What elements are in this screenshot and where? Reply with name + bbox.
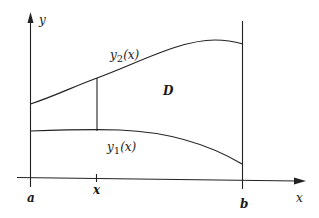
x-axis-arrow-icon <box>294 178 306 185</box>
x-tick-label: x <box>92 183 101 197</box>
lower-curve-label: y1(x) <box>106 140 137 156</box>
upper-curve-label: y2(x) <box>109 48 140 64</box>
region-d-label: D <box>162 84 174 98</box>
x-axis <box>17 178 298 182</box>
region-diagram: y x y2(x) y1(x) D a x b <box>0 0 319 218</box>
b-bound-label: b <box>240 197 248 211</box>
y-axis-arrow-icon <box>28 12 34 23</box>
x-axis-label: x <box>296 191 303 205</box>
a-bound-label: a <box>27 191 35 205</box>
y-axis-label: y <box>38 13 46 27</box>
